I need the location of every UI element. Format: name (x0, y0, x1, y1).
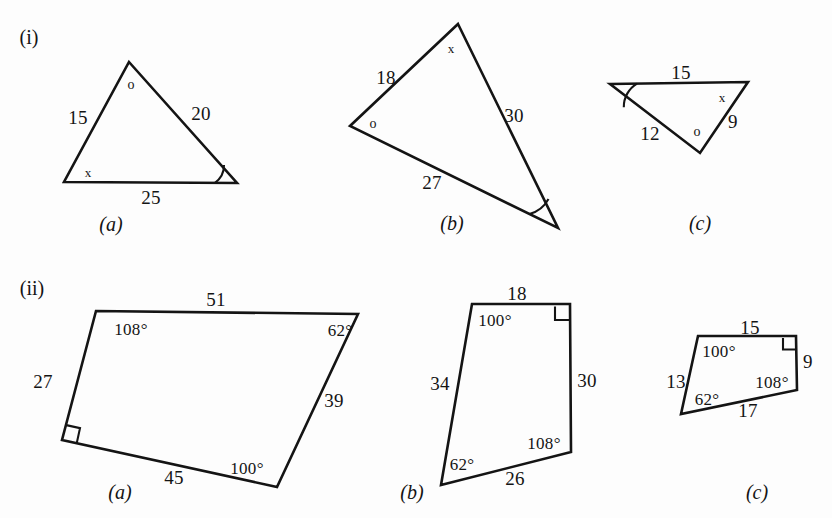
quad-c-side-left-label: 13 (666, 372, 686, 391)
figure-page: (i) (ii) 15 20 25 o x (a) 18 30 27 x o (… (0, 0, 832, 518)
quad-a-side-right-label: 39 (324, 391, 344, 410)
quad-b-side-top-label: 18 (507, 284, 527, 303)
quad-c-side-right-label: 9 (803, 352, 813, 371)
quad-c-angle-tl-label: 100° (702, 343, 736, 360)
quad-a-angle-tr-label: 62° (328, 322, 353, 339)
quad-b-side-right-label: 30 (577, 371, 597, 390)
figure-linework (0, 0, 832, 518)
triangle-b-angle-cross-mark: x (448, 42, 455, 55)
quad-c-right-angle-mark (783, 338, 796, 350)
triangle-c-angle-circle-mark: o (694, 125, 701, 139)
caption-ii-c: (c) (746, 481, 768, 504)
quad-a-outline (62, 311, 358, 487)
triangle-a-side-base-label: 25 (141, 188, 161, 207)
caption-i-a: (a) (99, 213, 122, 236)
quad-a-angle-tl-label: 108° (114, 321, 148, 338)
quad-c-angle-br-label: 108° (755, 374, 789, 391)
quad-a-side-bottom-label: 45 (164, 468, 184, 487)
triangle-b-side-base-label: 27 (422, 173, 442, 192)
triangle-b-side-upleft-label: 18 (376, 68, 396, 87)
triangle-a-side-left-label: 15 (68, 108, 88, 127)
quad-b-right-angle-mark (555, 307, 570, 321)
caption-ii-a: (a) (108, 481, 131, 504)
triangle-b-angle-circle-mark: o (370, 117, 377, 131)
quad-c-side-bottom-label: 17 (738, 401, 758, 420)
quad-a-angle-br-label: 100° (230, 460, 264, 477)
quad-b-angle-br-label: 108° (527, 435, 561, 452)
row-tag-i: (i) (20, 26, 39, 49)
triangle-a-side-right-label: 20 (191, 104, 211, 123)
caption-i-b: (b) (440, 212, 463, 235)
triangle-c-side-top-label: 15 (671, 63, 691, 82)
quad-b-angle-bl-label: 62° (450, 456, 475, 473)
quad-b-side-bottom-label: 26 (505, 469, 525, 488)
triangle-b-side-right-label: 30 (504, 106, 524, 125)
quad-c-angle-bl-label: 62° (695, 391, 720, 408)
quad-a-side-left-label: 27 (33, 372, 53, 391)
triangle-c-angle-cross-mark: x (719, 91, 726, 104)
caption-ii-b: (b) (400, 481, 423, 504)
triangle-a-angle-cross-mark: x (85, 166, 92, 179)
quad-b-angle-tl-label: 100° (478, 312, 512, 329)
quad-b-side-left-label: 34 (430, 374, 450, 393)
row-tag-ii: (ii) (20, 277, 44, 300)
caption-i-c: (c) (689, 212, 711, 235)
triangle-c-side-left-label: 12 (640, 124, 660, 143)
triangle-a-angle-circle-mark: o (128, 78, 135, 92)
quad-c-side-top-label: 15 (740, 318, 760, 337)
quad-a-side-top-label: 51 (206, 290, 226, 309)
triangle-c-side-right-label: 9 (728, 112, 738, 131)
